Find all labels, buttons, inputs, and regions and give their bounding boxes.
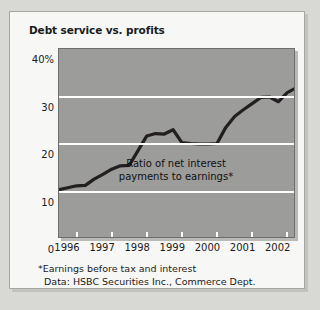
footnote-source-note: *Earnings before tax and interest (38, 262, 256, 275)
gridline-10 (59, 191, 294, 193)
x-tick-mark (146, 232, 148, 237)
annotation-line-1: Ratio of net interest (102, 157, 250, 170)
x-tick-mark (216, 232, 218, 237)
x-tick-label: 1999 (160, 242, 185, 253)
x-tick-label: 1997 (89, 242, 114, 253)
x-tick-mark (76, 232, 78, 237)
y-tick-label: 0 (48, 244, 54, 255)
footnote-data-source: Data: HSBC Securities Inc., Commerce Dep… (38, 275, 256, 288)
y-tick-label: 10 (41, 196, 54, 207)
x-tick-mark (251, 232, 253, 237)
x-tick-mark (181, 232, 183, 237)
x-tick-mark (111, 232, 113, 237)
x-tick-label: 1996 (54, 242, 79, 253)
y-tick-label: 20 (41, 149, 54, 160)
x-tick-label: 2002 (265, 242, 290, 253)
gridline-30 (59, 96, 294, 98)
series-annotation: Ratio of net interest payments to earnin… (102, 157, 250, 183)
annotation-line-2: payments to earnings* (102, 170, 250, 183)
chart-title: Debt service vs. profits (29, 24, 165, 36)
y-tick-label: 40% (32, 54, 54, 65)
footnotes: *Earnings before tax and interest Data: … (38, 262, 256, 288)
x-tick-label: 1998 (124, 242, 149, 253)
x-tick-label: 2000 (195, 242, 220, 253)
chart-card: Debt service vs. profits 010203040% 1996… (9, 11, 305, 289)
chart-figure: Debt service vs. profits 010203040% 1996… (0, 0, 320, 310)
x-tick-mark (286, 232, 288, 237)
y-axis: 010203040% (20, 48, 54, 240)
gridline-20 (59, 143, 294, 145)
x-tick-label: 2001 (230, 242, 255, 253)
y-tick-label: 30 (41, 101, 54, 112)
x-axis: 1996199719981999200020012002 (58, 242, 298, 258)
plot-wrap (58, 48, 295, 238)
plot-area (58, 48, 295, 238)
